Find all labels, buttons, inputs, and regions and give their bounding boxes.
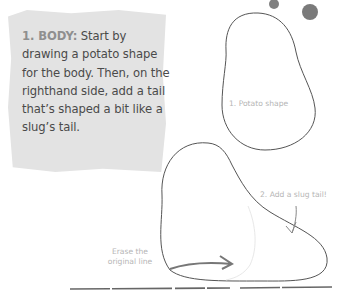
paint-dot-large bbox=[302, 4, 318, 20]
ground-line bbox=[70, 287, 332, 289]
slug-tail-label: 2. Add a slug tail! bbox=[260, 190, 327, 199]
erase-label-line-2: original line bbox=[98, 257, 162, 267]
potato-shape-outline bbox=[222, 13, 315, 150]
erase-label: Erase the original line bbox=[98, 247, 162, 267]
original-line-faint bbox=[226, 206, 255, 280]
erase-label-line-1: Erase the bbox=[98, 247, 162, 257]
tail-arrow-icon bbox=[286, 206, 296, 233]
erase-arrow-icon bbox=[170, 256, 232, 269]
potato-shape-label: 1. Potato shape bbox=[229, 99, 288, 108]
paint-dot-small bbox=[269, 0, 279, 9]
drawing-canvas bbox=[0, 0, 356, 303]
body-with-tail-outline bbox=[161, 143, 327, 281]
